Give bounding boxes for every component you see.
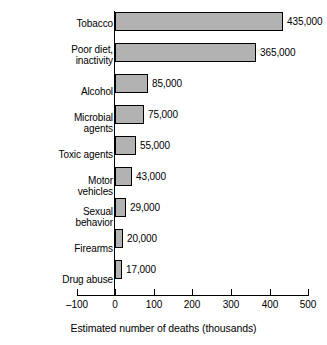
bar-poor-diet — [115, 43, 256, 62]
bar-firearms — [115, 229, 123, 248]
x-axis-line — [77, 295, 309, 296]
value-label: 85,000 — [152, 78, 182, 89]
bar-chart: Tobacco Poor diet, inactivity Alcohol Mi… — [0, 0, 327, 345]
x-tick-label: 0 — [95, 299, 135, 311]
category-label: Motor vehicles — [78, 175, 113, 197]
category-label: Tobacco — [76, 18, 113, 29]
x-tick-label: –100 — [57, 299, 97, 311]
category-label: Sexual behavior — [75, 206, 113, 228]
category-label: Alcohol — [81, 86, 113, 97]
category-label: Microbial agents — [74, 112, 113, 134]
bar-alcohol — [115, 74, 148, 93]
x-tick — [77, 289, 78, 296]
x-tick — [154, 289, 155, 296]
value-label: 55,000 — [140, 140, 170, 151]
category-label: Firearms — [74, 243, 113, 254]
value-label: 29,000 — [130, 202, 160, 213]
value-label: 365,000 — [260, 47, 295, 58]
x-tick-label: 100 — [134, 299, 174, 311]
x-tick — [115, 289, 116, 296]
x-tick-label: 300 — [211, 299, 251, 311]
bar-drug-abuse — [115, 260, 122, 279]
value-label: 20,000 — [127, 233, 157, 244]
y-axis-line — [114, 11, 115, 296]
value-label: 17,000 — [126, 264, 156, 275]
category-label: Poor diet, inactivity — [71, 44, 113, 66]
x-tick — [192, 289, 193, 296]
value-label: 43,000 — [136, 171, 166, 182]
x-tick-label: 200 — [172, 299, 212, 311]
x-tick-label: 500 — [288, 299, 327, 311]
x-tick — [270, 289, 271, 296]
category-label: Drug abuse — [62, 274, 113, 285]
value-label: 75,000 — [148, 109, 178, 120]
category-label: Toxic agents — [59, 149, 113, 160]
x-axis-title: Estimated number of deaths (thousands) — [0, 322, 327, 334]
value-label: 435,000 — [287, 16, 322, 27]
bar-motor-vehicles — [115, 167, 132, 186]
x-tick — [308, 289, 309, 296]
x-tick-label: 400 — [250, 299, 290, 311]
bar-sexual-behavior — [115, 198, 126, 217]
bar-tobacco — [115, 12, 283, 31]
x-tick — [231, 289, 232, 296]
bar-toxic-agents — [115, 136, 136, 155]
bar-microbial — [115, 105, 144, 124]
